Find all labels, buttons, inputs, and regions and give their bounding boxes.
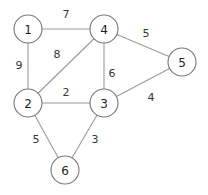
- node-label: 5: [178, 56, 186, 70]
- node-1: 1: [14, 15, 42, 43]
- node-2: 2: [14, 89, 42, 117]
- node-5: 5: [168, 48, 196, 76]
- node-label: 2: [24, 97, 32, 111]
- node-6: 6: [51, 156, 79, 184]
- edge-weight-label: 7: [63, 8, 70, 21]
- weighted-graph-diagram: 758962453 145236: [0, 0, 208, 195]
- edge-weight-label: 6: [109, 67, 116, 80]
- node-4: 4: [90, 15, 118, 43]
- edge-weight-label: 9: [16, 59, 23, 72]
- nodes-layer: 145236: [14, 15, 196, 184]
- edge-weight-label: 5: [143, 27, 150, 40]
- edge-weight-label: 8: [54, 48, 61, 61]
- node-label: 4: [100, 23, 108, 37]
- node-3: 3: [90, 89, 118, 117]
- edge-weight-label: 2: [63, 86, 70, 99]
- node-label: 6: [61, 164, 69, 178]
- node-label: 3: [100, 97, 108, 111]
- edge-weight-label: 3: [92, 133, 99, 146]
- edge-weight-label: 4: [148, 91, 155, 104]
- edge-weight-label: 5: [33, 133, 40, 146]
- node-label: 1: [24, 23, 32, 37]
